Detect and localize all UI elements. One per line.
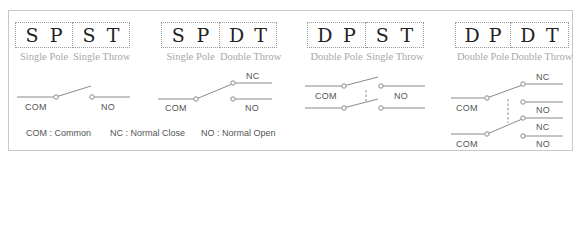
spdt-com-label: COM	[165, 103, 187, 113]
dpdt-nc-bottom-label: NC	[536, 122, 549, 132]
dpdt-nc-top-label: NC	[536, 72, 549, 82]
spdt-nc-label: NC	[246, 71, 259, 81]
dpst-no-label: NO	[394, 91, 408, 101]
legend-com: COM : Common	[26, 128, 91, 138]
dpdt-no-bottom-label: NO	[536, 139, 550, 149]
spdt-no-label: NO	[245, 103, 259, 113]
dpdt-com-top-label: COM	[456, 103, 478, 113]
dpst-com-label: COM	[315, 91, 337, 101]
legend-nc: NC : Normal Close	[110, 128, 185, 138]
spdt-schematic	[158, 81, 272, 101]
spst-no-label: NO	[101, 102, 115, 112]
dpdt-no-top-label: NO	[536, 105, 550, 115]
legend-no: NO : Normal Open	[201, 128, 276, 138]
dpdt-com-bottom-label: COM	[456, 139, 478, 149]
spst-schematic	[17, 86, 130, 99]
spst-com-label: COM	[25, 102, 47, 112]
